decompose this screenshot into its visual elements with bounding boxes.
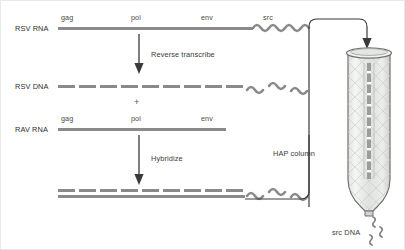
step-label-reverse-transcribe: Reverse transcribe xyxy=(151,50,215,59)
src-dna-output-label: src DNA xyxy=(332,228,360,237)
row-label-rsv-rna: RSV RNA xyxy=(15,24,49,33)
gene-label-pol-rsv-rna: pol xyxy=(131,13,141,22)
src-dna-droplets xyxy=(364,215,390,249)
strand-rav-rna xyxy=(58,128,226,131)
gene-label-gag-rsv-rna: gag xyxy=(61,13,73,22)
gene-label-env-rsv-rna: env xyxy=(201,13,213,22)
step-label-hybridize: Hybridize xyxy=(151,154,183,163)
gene-label-pol-rav-rna: pol xyxy=(131,114,141,123)
strand-rsv-rna xyxy=(58,27,253,30)
duplex-bottom-strand xyxy=(58,195,245,198)
figure-canvas: RSV RNA gag pol env src Reverse transcri… xyxy=(0,0,405,250)
hap-column-label: HAP column xyxy=(273,149,315,158)
gene-label-gag-rav-rna: gag xyxy=(61,114,73,123)
strand-rsv-dna xyxy=(58,85,245,88)
row-label-rav-rna: RAV RNA xyxy=(15,125,48,134)
gene-label-env-rav-rna: env xyxy=(201,114,213,123)
arrow-hybridize xyxy=(131,135,147,187)
row-label-rsv-dna: RSV DNA xyxy=(15,82,49,91)
plus-symbol: + xyxy=(134,97,139,107)
hap-column-tube xyxy=(341,41,397,221)
arrow-reverse-transcribe xyxy=(131,34,147,76)
duplex-top-strand xyxy=(58,189,245,192)
